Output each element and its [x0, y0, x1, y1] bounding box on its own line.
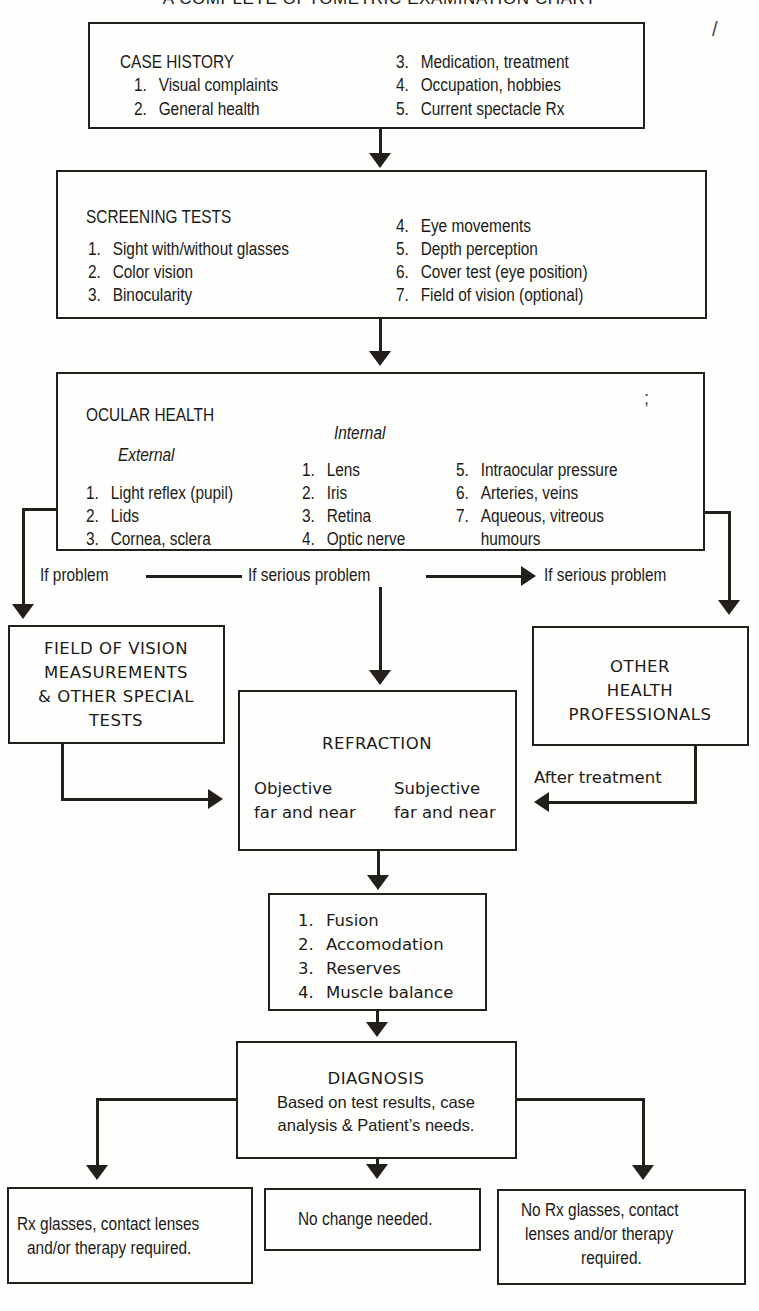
case-history-item: 2.General health — [134, 98, 260, 121]
connector-line — [426, 575, 522, 578]
outcome-line: required. — [581, 1247, 642, 1270]
connector-line — [22, 508, 25, 608]
case-history-box: CASE HISTORY 1.Visual complaints 2.Gener… — [88, 22, 645, 129]
other-health-line: OTHER — [534, 655, 746, 678]
case-history-heading: CASE HISTORY — [120, 51, 234, 74]
connector-line — [728, 511, 731, 603]
internal-item: 6.Arteries, veins — [456, 482, 578, 505]
external-heading: External — [118, 444, 174, 467]
external-item: 1.Light reflex (pupil) — [86, 482, 233, 505]
screening-item: 5.Depth perception — [396, 238, 538, 261]
arrow-down-icon — [369, 153, 391, 168]
case-history-item: 5.Current spectacle Rx — [396, 98, 564, 121]
ocular-health-box: OCULAR HEALTH External Internal 1.Light … — [56, 372, 705, 551]
objective-sub-label: far and near — [254, 801, 356, 824]
if-serious-problem-center-label: If serious problem — [248, 564, 370, 587]
connector-line — [516, 1098, 645, 1101]
screening-item: 2.Color vision — [88, 261, 193, 284]
diagnosis-heading: DIAGNOSIS — [238, 1067, 514, 1090]
arrow-down-icon — [366, 1164, 388, 1179]
outcome-line: No change needed. — [298, 1208, 432, 1231]
connector-line — [96, 1098, 99, 1168]
binocular-item: 4.Muscle balance — [298, 981, 453, 1004]
arrow-right-icon — [208, 789, 223, 809]
field-of-vision-box: FIELD OF VISION MEASUREMENTS & OTHER SPE… — [8, 625, 225, 744]
arrow-down-icon — [12, 604, 34, 619]
arrow-down-icon — [369, 670, 391, 685]
internal-item: 5.Intraocular pressure — [456, 459, 618, 482]
arrow-down-icon — [718, 600, 740, 615]
connector-line — [146, 575, 242, 578]
case-history-item: 1.Visual complaints — [134, 74, 278, 97]
case-history-item: 4.Occupation, hobbies — [396, 74, 561, 97]
diagnosis-box: DIAGNOSIS Based on test results, case an… — [236, 1041, 517, 1159]
binocular-item: 2.Accomodation — [298, 933, 444, 956]
subjective-sub-label: far and near — [394, 801, 496, 824]
internal-heading: Internal — [334, 422, 385, 445]
if-serious-problem-right-label: If serious problem — [544, 564, 666, 587]
after-treatment-label: After treatment — [534, 766, 662, 789]
field-of-vision-line: MEASUREMENTS — [10, 661, 222, 684]
connector-line — [379, 319, 382, 353]
connector-line — [704, 511, 731, 514]
if-problem-label: If problem — [40, 564, 108, 587]
chart-title: A COMPLETE OPTOMETRIC EXAMINATION CHART — [0, 0, 759, 9]
field-of-vision-line: & OTHER SPECIAL — [10, 685, 222, 708]
internal-item: 3.Retina — [302, 505, 371, 528]
connector-line — [548, 801, 697, 804]
refraction-box: REFRACTION Objective far and near Subjec… — [238, 690, 517, 851]
other-health-line: PROFESSIONALS — [534, 703, 746, 726]
internal-item: humours — [456, 528, 541, 551]
binocular-item: 3.Reserves — [298, 957, 401, 980]
external-item: 3.Cornea, sclera — [86, 528, 211, 551]
connector-line — [377, 851, 380, 878]
arrow-down-icon — [86, 1165, 108, 1180]
binocular-item: 1.Fusion — [298, 909, 379, 932]
internal-item: 2.Iris — [302, 482, 347, 505]
arrow-down-icon — [367, 875, 389, 890]
diagnosis-line: analysis & Patient’s needs. — [238, 1114, 514, 1137]
field-of-vision-line: FIELD OF VISION — [10, 637, 222, 660]
screening-tests-heading: SCREENING TESTS — [86, 206, 231, 229]
screening-item: 7.Field of vision (optional) — [396, 284, 583, 307]
refraction-heading: REFRACTION — [240, 732, 514, 755]
subjective-label: Subjective — [394, 777, 480, 800]
objective-label: Objective — [254, 777, 332, 800]
screening-item: 1.Sight with/without glasses — [88, 238, 289, 261]
connector-line — [379, 129, 382, 155]
connector-line — [22, 508, 57, 511]
binocular-tests-box: 1.Fusion 2.Accomodation 3.Reserves 4.Mus… — [268, 893, 487, 1011]
outcome-line: Rx glasses, contact lenses — [17, 1213, 199, 1236]
outcome-no-change-box: No change needed. — [264, 1188, 481, 1251]
arrow-down-icon — [369, 351, 391, 366]
outcome-no-rx-box: No Rx glasses, contact lenses and/or the… — [497, 1189, 746, 1285]
stray-pen-mark: / — [712, 18, 718, 41]
diagnosis-line: Based on test results, case — [238, 1091, 514, 1114]
case-history-item: 3.Medication, treatment — [396, 51, 569, 74]
screening-item: 6.Cover test (eye position) — [396, 261, 588, 284]
screening-item: 4.Eye movements — [396, 215, 531, 238]
internal-item: 7.Aqueous, vitreous — [456, 505, 604, 528]
outcome-rx-required-box: Rx glasses, contact lenses and/or therap… — [7, 1187, 253, 1284]
connector-line — [61, 744, 64, 801]
outcome-line: and/or therapy required. — [27, 1237, 191, 1260]
other-health-line: HEALTH — [534, 679, 746, 702]
connector-line — [694, 746, 697, 804]
stray-mark: ; — [644, 388, 649, 409]
internal-item: 4.Optic nerve — [302, 528, 405, 551]
connector-line — [642, 1098, 645, 1168]
arrow-right-icon — [521, 566, 536, 586]
connector-line — [379, 587, 382, 673]
arrow-down-icon — [366, 1022, 388, 1037]
internal-item: 1.Lens — [302, 459, 360, 482]
arrow-down-icon — [632, 1165, 654, 1180]
outcome-line: lenses and/or therapy — [525, 1223, 673, 1246]
connector-line — [96, 1098, 237, 1101]
external-item: 2.Lids — [86, 505, 139, 528]
connector-line — [61, 798, 209, 801]
outcome-line: No Rx glasses, contact — [521, 1199, 678, 1222]
field-of-vision-line: TESTS — [10, 709, 222, 732]
ocular-health-heading: OCULAR HEALTH — [86, 404, 214, 427]
screening-item: 3.Binocularity — [88, 284, 192, 307]
other-health-professionals-box: OTHER HEALTH PROFESSIONALS — [532, 626, 749, 746]
